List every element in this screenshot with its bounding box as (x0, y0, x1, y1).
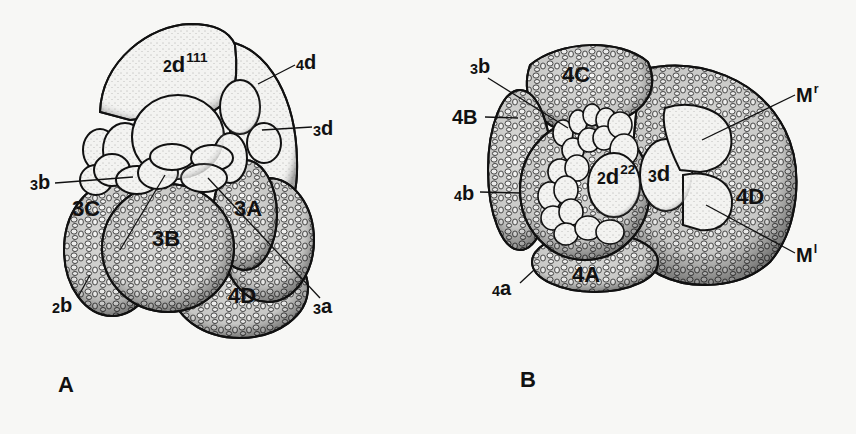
label-prefix: 4 (296, 57, 304, 73)
label-2d111: 2d111 (163, 51, 208, 76)
label-base: 4B (452, 106, 478, 128)
label-base: b (38, 171, 50, 193)
label-3d: 3d (313, 118, 333, 138)
label-superscript: 111 (186, 50, 207, 65)
label-superscript: l (814, 242, 817, 256)
label-base: d (172, 52, 185, 77)
label-base: 3B (152, 226, 180, 251)
label-3B: 3B (152, 228, 180, 250)
label-Mr: Mr (796, 83, 819, 105)
label-base: 4D (736, 184, 764, 209)
label-base: 4A (572, 262, 600, 287)
label-base: a (500, 277, 511, 299)
label-base: d (657, 161, 670, 186)
label-2d22: 2d22 (597, 163, 635, 188)
label-prefix: 2 (163, 58, 172, 75)
label-3d: 3d (648, 163, 670, 185)
label-superscript: 22 (620, 162, 635, 177)
label-prefix: 4 (454, 188, 462, 204)
label-prefix: 2 (597, 170, 606, 187)
label-4C: 4C (562, 64, 590, 86)
label-base: 4C (562, 62, 590, 87)
label-base: 3C (72, 196, 100, 221)
panel-b-drawing (480, 45, 796, 292)
label-3b: 3b (470, 56, 490, 76)
label-base: a (321, 295, 332, 317)
label-prefix: 2 (52, 300, 60, 316)
embryo-cleavage-figure: 2d111 4d 3d 3b 3C 3A 3B 4D 2b 3a A 3b 4C… (0, 0, 856, 434)
label-2b: 2b (52, 295, 72, 315)
label-Ml: Ml (796, 243, 817, 265)
label-4d: 4d (296, 52, 316, 72)
label-4D: 4D (228, 285, 256, 307)
label-base: d (606, 164, 619, 189)
label-4B: 4B (452, 107, 478, 127)
label-superscript: r (814, 82, 819, 96)
label-prefix: 3 (313, 123, 321, 139)
panel-letter-a: A (58, 372, 74, 398)
label-3C: 3C (72, 198, 100, 220)
label-3A: 3A (234, 198, 262, 220)
panel-letter-b: B (520, 367, 536, 393)
label-prefix: 3 (30, 177, 38, 193)
label-3b: 3b (30, 172, 50, 192)
figure-drawing (0, 0, 856, 434)
label-prefix: 3 (313, 301, 321, 317)
label-base: d (304, 51, 316, 73)
label-base: M (796, 244, 813, 266)
label-4D: 4D (736, 186, 764, 208)
label-base: b (462, 182, 474, 204)
label-base: 3A (234, 196, 262, 221)
label-prefix: 4 (492, 283, 500, 299)
label-4A: 4A (572, 264, 600, 286)
label-base: 4D (228, 283, 256, 308)
label-base: M (796, 84, 813, 106)
label-base: b (478, 55, 490, 77)
label-prefix: 3 (470, 61, 478, 77)
label-base: b (60, 294, 72, 316)
label-4b: 4b (454, 183, 474, 203)
label-prefix: 3 (648, 168, 657, 185)
label-base: d (321, 117, 333, 139)
label-4a: 4a (492, 278, 511, 298)
label-3a: 3a (313, 296, 332, 316)
